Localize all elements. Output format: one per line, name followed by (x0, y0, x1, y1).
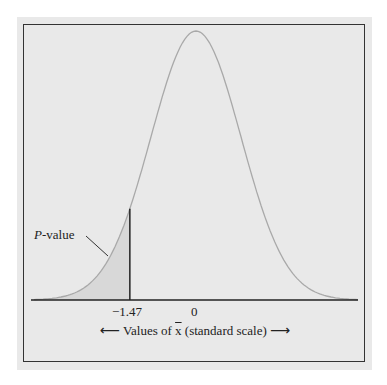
p-value-pointer (86, 236, 108, 256)
tick-label-zero: 0 (191, 304, 198, 320)
p-value-shaded-area (34, 209, 130, 300)
tick-label-neg: −1.47 (112, 304, 142, 320)
p-value-label: P-value (34, 227, 74, 243)
x-axis-label: ⟵ Values of x (standard scale) ⟶ (100, 322, 290, 339)
normal-curve (34, 31, 358, 300)
arrow-left-icon: ⟵ (100, 322, 120, 338)
arrow-right-icon: ⟶ (270, 322, 290, 338)
